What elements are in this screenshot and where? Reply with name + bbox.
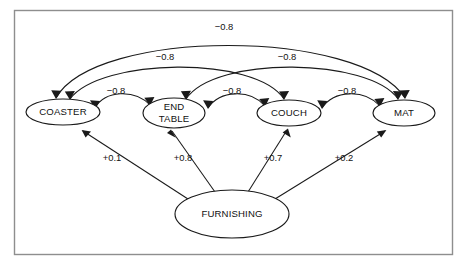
edge-label-end-table-couch: −0.8 xyxy=(223,85,242,96)
edge-label-furnishing-coaster: +0.1 xyxy=(103,152,122,163)
node-mat[interactable]: MAT xyxy=(373,100,435,126)
node-furnishing[interactable]: FURNISHING xyxy=(175,190,289,238)
node-end-table-label-line1: END xyxy=(164,101,185,112)
edge-label-coaster-end-table: −0.8 xyxy=(107,85,126,96)
edge-label-furnishing-mat: +0.2 xyxy=(335,152,354,163)
edge-label-coaster-mat: −0.8 xyxy=(215,21,234,32)
node-coaster[interactable]: COASTER xyxy=(26,99,100,125)
edge-label-furnishing-end-table: +0.8 xyxy=(174,152,193,163)
edge-label-coaster-couch: −0.8 xyxy=(156,51,175,62)
edge-label-couch-mat: −0.8 xyxy=(338,85,357,96)
node-coaster-label: COASTER xyxy=(39,106,86,117)
node-couch[interactable]: COUCH xyxy=(257,100,321,126)
node-furnishing-label: FURNISHING xyxy=(201,208,262,219)
node-couch-label: COUCH xyxy=(271,107,307,118)
network-diagram-figure: −0.8 −0.8 −0.8 −0.8 −0.8 xyxy=(0,0,467,271)
node-mat-label: MAT xyxy=(394,107,414,118)
node-end-table[interactable]: END TABLE xyxy=(143,98,205,128)
node-end-table-label-line2: TABLE xyxy=(159,113,189,124)
edge-label-furnishing-couch: +0.7 xyxy=(264,152,283,163)
edge-label-end-table-mat: −0.8 xyxy=(278,51,297,62)
diagram-canvas: −0.8 −0.8 −0.8 −0.8 −0.8 xyxy=(0,0,467,271)
